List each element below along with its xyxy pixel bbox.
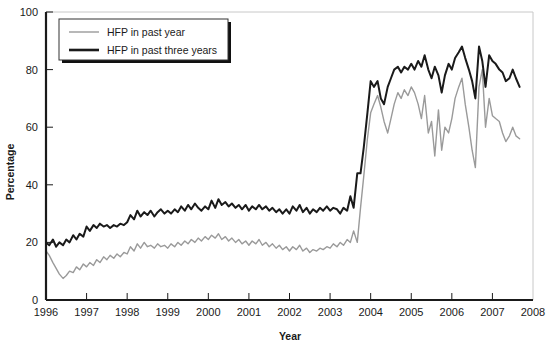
y-tick-label: 60 bbox=[26, 121, 38, 133]
y-tick-label: 100 bbox=[20, 6, 38, 18]
y-tick-label: 40 bbox=[26, 179, 38, 191]
x-tick-label: 2004 bbox=[358, 306, 382, 318]
y-tick-label: 0 bbox=[32, 294, 38, 306]
x-tick-label: 2001 bbox=[237, 306, 261, 318]
x-tick-label: 1998 bbox=[115, 306, 139, 318]
x-tick-label: 1999 bbox=[156, 306, 180, 318]
legend-label-0: HFP in past year bbox=[107, 26, 186, 38]
y-axis-title: Percentage bbox=[4, 144, 16, 201]
x-axis-title: Year bbox=[279, 330, 301, 342]
x-tick-label: 2002 bbox=[277, 306, 301, 318]
chart-legend: HFP in past yearHFP in past three years bbox=[59, 19, 231, 63]
x-tick-label: 2000 bbox=[196, 306, 220, 318]
legend-label-1: HFP in past three years bbox=[107, 44, 217, 56]
line-chart: 020406080100 199619971998199920002001200… bbox=[0, 0, 550, 345]
x-tick-label: 2003 bbox=[318, 306, 342, 318]
y-tick-label: 20 bbox=[26, 236, 38, 248]
x-tick-label: 2008 bbox=[521, 306, 545, 318]
x-tick-label: 2007 bbox=[480, 306, 504, 318]
x-tick-label: 1997 bbox=[74, 306, 98, 318]
y-tick-label: 80 bbox=[26, 64, 38, 76]
x-tick-label: 2006 bbox=[440, 306, 464, 318]
x-tick-label: 1996 bbox=[34, 306, 58, 318]
x-tick-label: 2005 bbox=[399, 306, 423, 318]
chart-container: 020406080100 199619971998199920002001200… bbox=[0, 0, 550, 345]
